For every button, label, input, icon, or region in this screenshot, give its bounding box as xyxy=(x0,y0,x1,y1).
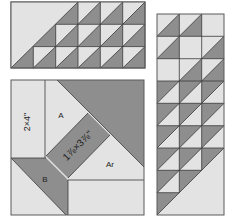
label-piece-a: A xyxy=(58,111,64,120)
side-strip-panel xyxy=(157,14,224,215)
label-piece-b: B xyxy=(42,175,47,184)
label-left-strip: 2×4" xyxy=(22,113,32,131)
top-strip-panel xyxy=(11,2,145,68)
quilt-diagram: 2×4" A 1⅞×3⅞" Ar B xyxy=(0,0,232,224)
label-piece-ar: Ar xyxy=(106,160,114,169)
block-detail-panel: 2×4" A 1⅞×3⅞" Ar B xyxy=(11,80,144,215)
